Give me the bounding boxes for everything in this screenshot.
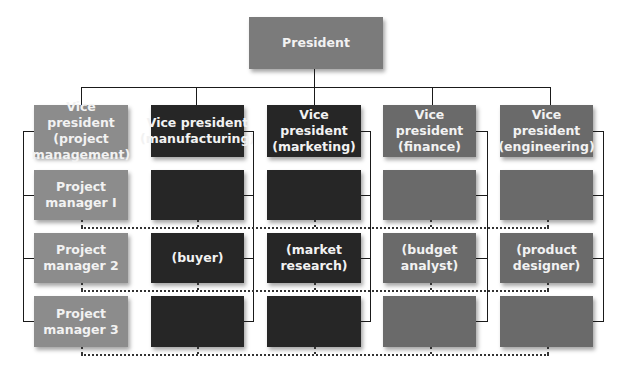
dotted-stub bbox=[314, 220, 316, 227]
connector-col1-bracket bbox=[23, 131, 24, 321]
dotted-stub bbox=[547, 347, 549, 354]
connector-col5-bracket bbox=[603, 131, 604, 321]
dotted-stub bbox=[547, 220, 549, 227]
dotted-project-line-3 bbox=[81, 354, 549, 356]
dotted-stub bbox=[81, 220, 83, 227]
dotted-project-line-2 bbox=[81, 290, 549, 292]
connector-vp3 bbox=[314, 87, 315, 105]
role-label: Project manager 3 bbox=[37, 306, 125, 338]
vp-label: Vice president (marketing) bbox=[270, 107, 358, 155]
president-label: President bbox=[282, 35, 350, 51]
engineering-product-designer: (product designer) bbox=[500, 233, 593, 283]
project-manager-3: Project manager 3 bbox=[34, 296, 128, 347]
vp-manufacturing: Vice president (manufacturing) bbox=[151, 105, 244, 157]
vp-label: Vice president (project management) bbox=[32, 99, 130, 163]
president-box: President bbox=[249, 17, 383, 69]
connector-tick bbox=[244, 131, 254, 132]
role-label: (buyer) bbox=[171, 250, 223, 266]
connector-col2-bracket bbox=[253, 131, 254, 321]
role-label: (market research) bbox=[270, 242, 358, 274]
connector-tick bbox=[361, 321, 371, 322]
vp-engineering: Vice president (engineering) bbox=[500, 105, 593, 157]
dotted-stub bbox=[430, 347, 432, 354]
dotted-stub bbox=[314, 347, 316, 354]
connector-tick bbox=[593, 258, 604, 259]
connector-vp5 bbox=[550, 87, 551, 105]
dotted-stub bbox=[81, 283, 83, 290]
connector-tick bbox=[476, 195, 488, 196]
dotted-stub bbox=[197, 347, 199, 354]
connector-vp2 bbox=[196, 87, 197, 105]
engineering-row-3 bbox=[500, 296, 593, 347]
role-label: Project manager I bbox=[37, 179, 125, 211]
connector-president-down bbox=[314, 69, 315, 87]
dotted-stub bbox=[430, 220, 432, 227]
project-manager-1: Project manager I bbox=[34, 170, 128, 220]
dotted-stub bbox=[81, 347, 83, 354]
connector-tick bbox=[244, 195, 254, 196]
connector-vp-bar bbox=[81, 87, 551, 88]
manufacturing-row-1 bbox=[151, 170, 244, 220]
role-label: (budget analyst) bbox=[386, 242, 473, 274]
project-manager-2: Project manager 2 bbox=[34, 233, 128, 283]
finance-row-3 bbox=[383, 296, 476, 347]
connector-tick bbox=[361, 195, 371, 196]
connector-tick bbox=[476, 321, 488, 322]
vp-label: Vice president (manufacturing) bbox=[140, 115, 255, 147]
connector-tick bbox=[244, 321, 254, 322]
marketing-row-1 bbox=[267, 170, 361, 220]
connector-tick bbox=[23, 321, 34, 322]
connector-tick bbox=[244, 258, 254, 259]
engineering-row-1 bbox=[500, 170, 593, 220]
connector-tick bbox=[23, 258, 34, 259]
marketing-row-3 bbox=[267, 296, 361, 347]
role-label: (product designer) bbox=[503, 242, 590, 274]
connector-tick bbox=[23, 131, 34, 132]
connector-col4-bracket bbox=[487, 131, 488, 321]
manufacturing-buyer: (buyer) bbox=[151, 233, 244, 283]
connector-tick bbox=[593, 131, 604, 132]
connector-tick bbox=[593, 321, 604, 322]
role-label: Project manager 2 bbox=[37, 242, 125, 274]
connector-tick bbox=[593, 195, 604, 196]
manufacturing-row-3 bbox=[151, 296, 244, 347]
finance-row-1 bbox=[383, 170, 476, 220]
dotted-stub bbox=[197, 220, 199, 227]
vp-finance: Vice president (finance) bbox=[383, 105, 476, 157]
connector-tick bbox=[361, 258, 371, 259]
connector-vp4 bbox=[432, 87, 433, 105]
dotted-stub bbox=[314, 283, 316, 290]
connector-tick bbox=[361, 131, 371, 132]
connector-tick bbox=[23, 195, 34, 196]
dotted-project-line-1 bbox=[81, 227, 549, 229]
connector-tick bbox=[476, 131, 488, 132]
dotted-stub bbox=[547, 283, 549, 290]
vp-marketing: Vice president (marketing) bbox=[267, 105, 361, 157]
marketing-market-research: (market research) bbox=[267, 233, 361, 283]
connector-col3-bracket bbox=[370, 131, 371, 321]
finance-budget-analyst: (budget analyst) bbox=[383, 233, 476, 283]
vp-label: Vice president (finance) bbox=[386, 107, 473, 155]
vp-label: Vice president (engineering) bbox=[498, 107, 594, 155]
vp-project-management: Vice president (project management) bbox=[34, 105, 128, 157]
dotted-stub bbox=[197, 283, 199, 290]
dotted-stub bbox=[430, 283, 432, 290]
connector-tick bbox=[476, 258, 488, 259]
